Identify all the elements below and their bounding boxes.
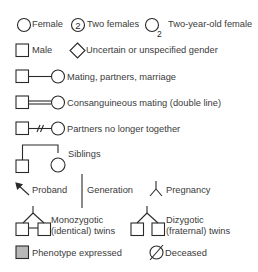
consanguineous-label: Consanguineous mating (double line) xyxy=(67,98,221,109)
male-label: Male xyxy=(32,45,52,56)
separated-partners-icon xyxy=(15,121,67,137)
female-label: Female xyxy=(32,19,63,30)
proband-label: Proband xyxy=(32,185,67,196)
dizygotic-label-line2: (fraternal) twins xyxy=(166,226,230,237)
phenotype-label: Phenotype expressed xyxy=(32,248,122,259)
two-year-old-female-label: Two-year-old female xyxy=(168,19,252,30)
siblings-label: Siblings xyxy=(68,149,101,160)
two-year-old-female-circle-icon: 2 xyxy=(144,17,168,37)
consanguineous-double-line-icon xyxy=(15,95,67,111)
two-females-label: Two females xyxy=(87,19,139,30)
generation-label: Generation xyxy=(87,185,133,196)
uncertain-gender-label: Uncertain or unspecified gender xyxy=(86,45,218,56)
male-square-icon xyxy=(15,43,31,59)
pregnancy-icon xyxy=(148,180,164,198)
dizygotic-label-line1: Dizygotic xyxy=(166,215,204,226)
svg-text:2: 2 xyxy=(157,29,162,39)
dizygotic-twins-icon xyxy=(130,205,170,237)
monozygotic-label-line2: (identical) twins xyxy=(51,226,115,237)
separated-label: Partners no longer together xyxy=(67,124,180,135)
female-circle-icon xyxy=(16,17,32,33)
two-females-circle-icon: 2 xyxy=(70,17,86,33)
monozygotic-label-line1: Monozygotic xyxy=(51,215,103,226)
deceased-icon xyxy=(148,244,166,262)
pregnancy-label: Pregnancy xyxy=(166,185,210,196)
generation-line-icon xyxy=(80,173,84,209)
deceased-label: Deceased xyxy=(165,248,207,259)
siblings-icon xyxy=(15,143,67,175)
svg-text:2: 2 xyxy=(75,20,80,31)
mating-label: Mating, partners, marriage xyxy=(67,72,176,83)
mating-line-icon xyxy=(15,69,67,85)
phenotype-expressed-square-icon xyxy=(15,245,31,261)
monozygotic-twins-icon xyxy=(15,205,55,237)
uncertain-gender-diamond-icon xyxy=(69,42,87,60)
proband-arrow-icon xyxy=(14,182,32,198)
